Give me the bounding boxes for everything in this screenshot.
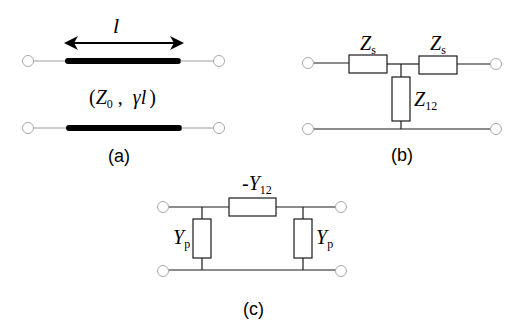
panel-b-t-network: Zs Zs Z12 (b) — [303, 32, 502, 165]
label-yp-left: Yp — [173, 226, 190, 251]
shunt-impedance — [392, 77, 410, 121]
terminal-a-bottom-right — [214, 123, 225, 134]
shunt-admittance-right — [294, 219, 312, 258]
terminal-a-bottom-left — [23, 123, 34, 134]
label-yp-right: Yp — [316, 226, 333, 251]
terminal-b-top-right — [491, 59, 502, 70]
terminal-b-bottom-right — [491, 124, 502, 135]
terminal-c-top-right — [336, 202, 347, 213]
line-parameters-label: (Z0 , γl) — [89, 86, 156, 111]
shunt-admittance-left — [193, 219, 211, 258]
terminal-c-bottom-left — [158, 266, 169, 277]
terminal-b-top-left — [303, 58, 314, 69]
label-zs-right: Zs — [430, 32, 446, 57]
panel-c-pi-network: -Y12 Yp Yp (c) — [158, 172, 347, 319]
terminal-c-bottom-right — [336, 266, 347, 277]
length-arrow — [64, 36, 184, 50]
series-impedance-right — [419, 56, 457, 74]
caption-c: (c) — [243, 299, 264, 319]
terminal-b-bottom-left — [303, 124, 314, 135]
label-neg-y12: -Y12 — [242, 172, 272, 197]
terminal-a-top-left — [23, 56, 34, 67]
label-zs-left: Zs — [360, 32, 376, 57]
caption-a: (a) — [108, 146, 130, 166]
panel-a-transmission-line: l (Z0 , γl) (a) — [23, 13, 225, 166]
series-impedance-left — [349, 55, 387, 73]
label-z12: Z12 — [414, 88, 437, 113]
terminal-a-top-right — [214, 56, 225, 67]
series-admittance — [229, 198, 276, 216]
length-label: l — [113, 13, 119, 38]
caption-b: (b) — [391, 145, 413, 165]
terminal-c-top-left — [158, 202, 169, 213]
